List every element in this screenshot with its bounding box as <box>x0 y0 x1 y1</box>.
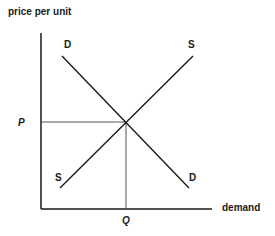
equilibrium-quantity-label: Q <box>122 216 130 226</box>
demand-curve-top-label: D <box>64 40 71 50</box>
diagram-canvas <box>0 0 275 236</box>
supply-curve-top-label: S <box>188 40 195 50</box>
x-axis-label: demand <box>222 203 260 213</box>
equilibrium-price-label: P <box>18 118 25 128</box>
demand-curve-bottom-label: D <box>189 173 196 183</box>
supply-curve-bottom-label: S <box>55 173 62 183</box>
y-axis-label: price per unit <box>8 7 71 17</box>
